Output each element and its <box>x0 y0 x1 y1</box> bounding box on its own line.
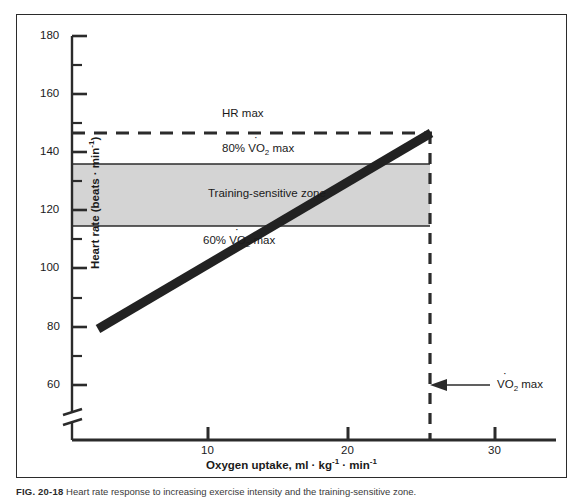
data-line-heart-rate <box>98 133 431 329</box>
y-tick-label-100: 100 <box>40 262 59 274</box>
figure-caption-number: FIG. 20-18 <box>16 486 63 497</box>
y-axis-title-exponent: -1 <box>87 141 96 148</box>
y-tick-label-80: 80 <box>47 321 60 333</box>
training-zone-label: Training-sensitive zone <box>208 188 326 200</box>
y-tick-label-120: 120 <box>40 204 59 216</box>
x-axis-title-exponent-2: -1 <box>370 457 377 466</box>
x-tick-label-10: 10 <box>201 445 214 457</box>
vdot-icon-80: VO <box>248 142 265 154</box>
x-axis-title: Oxygen uptake, ml · kg-1 · min-1 <box>16 457 567 471</box>
figure-caption: FIG. 20-18 Heart rate response to increa… <box>16 486 576 498</box>
figure-caption-text: Heart rate response to increasing exerci… <box>66 486 416 497</box>
vdot-icon-60: VO <box>229 234 246 246</box>
hr-max-label: HR max <box>222 108 264 120</box>
y-tick-label-180: 180 <box>40 30 59 42</box>
y-axis-major-ticks <box>72 36 87 385</box>
vo2-max-label: VO2 max <box>497 379 543 393</box>
vdot-icon-max: VO <box>497 378 514 390</box>
y-tick-label-160: 160 <box>40 88 59 100</box>
x-tick-label-20: 20 <box>341 445 354 457</box>
x-tick-label-30: 30 <box>488 445 501 457</box>
vo2-60-percent-label: 60% VO2 max <box>203 235 275 249</box>
x-axis-major-ticks <box>208 427 495 440</box>
y-tick-label-60: 60 <box>47 379 60 391</box>
y-axis-title: Heart rate (beats · min-1) <box>87 103 101 303</box>
vo2-80-percent-label: 80% VO2 max <box>222 143 294 157</box>
figure-root: 180 160 140 120 100 80 60 10 20 30 Heart… <box>0 0 587 498</box>
vo2-max-arrow <box>430 379 490 391</box>
y-tick-label-140: 140 <box>40 146 59 158</box>
